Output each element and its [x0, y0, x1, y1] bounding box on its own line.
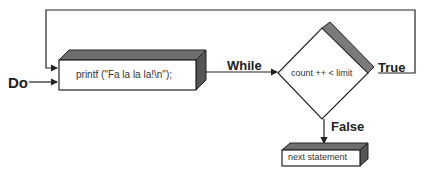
next-statement-text: next statement [288, 152, 347, 162]
while-label: While [227, 58, 262, 73]
condition-text: count ++ < limit [291, 68, 352, 78]
true-label: True [378, 60, 405, 75]
flowchart-canvas [0, 0, 427, 187]
do-label: Do [8, 74, 28, 91]
statement-text: printf ("Fa la la la!\n"); [76, 69, 172, 80]
false-label: False [331, 119, 364, 134]
